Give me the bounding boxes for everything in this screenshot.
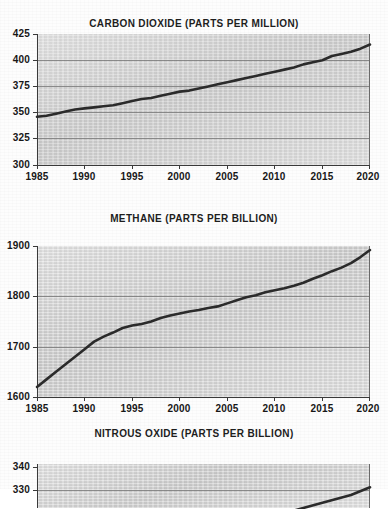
xtick-label-2015: 2015 xyxy=(302,171,342,182)
xtick-label-m-1995: 1995 xyxy=(112,403,152,414)
plot-wrap-methane: 1900 1800 1700 1600 1985 1990 1995 2000 … xyxy=(0,224,388,384)
xtick-label-2005: 2005 xyxy=(207,171,247,182)
xtick-label-1995: 1995 xyxy=(112,171,152,182)
chart-title-carbon-dioxide: CARBON DIOXIDE (PARTS PER MILLION) xyxy=(0,18,388,29)
chart-panel-nitrous-oxide: NITROUS OXIDE (PARTS PER BILLION) 340 33… xyxy=(0,420,388,509)
xtick-mark-m-1985 xyxy=(37,397,38,401)
xtick-mark-m-2005 xyxy=(227,397,228,401)
plot-wrap-carbon-dioxide: 425 400 375 350 325 300 1985 1990 1995 2… xyxy=(0,29,388,179)
chart-panel-methane: METHANE (PARTS PER BILLION) 1900 1800 17… xyxy=(0,205,388,384)
xtick-label-m-1985: 1985 xyxy=(17,403,57,414)
xtick-mark-m-2015 xyxy=(322,397,323,401)
x-axis-carbon-dioxide xyxy=(37,165,370,166)
ytick-label-1700: 1700 xyxy=(0,341,30,352)
xtick-label-m-1990: 1990 xyxy=(64,403,104,414)
xtick-label-2000: 2000 xyxy=(159,171,199,182)
xtick-label-1990: 1990 xyxy=(64,171,104,182)
series-line-nitrous-oxide xyxy=(37,464,370,508)
ytick-label-350: 350 xyxy=(0,106,30,117)
ytick-label-300: 300 xyxy=(0,159,30,170)
xtick-label-m-2020: 2020 xyxy=(348,403,388,414)
ytick-label-1900: 1900 xyxy=(0,240,30,251)
xtick-label-2010: 2010 xyxy=(254,171,294,182)
xtick-label-2020: 2020 xyxy=(348,171,388,182)
ytick-label-1800: 1800 xyxy=(0,290,30,301)
xtick-mark-2020 xyxy=(369,165,370,169)
xtick-label-m-2005: 2005 xyxy=(207,403,247,414)
ytick-label-375: 375 xyxy=(0,80,30,91)
xtick-label-1985: 1985 xyxy=(17,171,57,182)
series-line-carbon-dioxide xyxy=(37,34,370,165)
xtick-mark-1990 xyxy=(84,165,85,169)
plot-wrap-nitrous-oxide: 340 330 xyxy=(0,439,388,509)
x-axis-methane xyxy=(37,397,370,398)
xtick-mark-m-1990 xyxy=(84,397,85,401)
xtick-mark-2000 xyxy=(179,165,180,169)
xtick-mark-m-2000 xyxy=(179,397,180,401)
ytick-label-330: 330 xyxy=(0,484,30,495)
ytick-label-340: 340 xyxy=(0,461,30,472)
xtick-label-m-2010: 2010 xyxy=(254,403,294,414)
ytick-label-400: 400 xyxy=(0,54,30,65)
xtick-label-m-2000: 2000 xyxy=(159,403,199,414)
xtick-label-m-2015: 2015 xyxy=(302,403,342,414)
xtick-mark-m-2020 xyxy=(369,397,370,401)
xtick-mark-2010 xyxy=(274,165,275,169)
series-line-methane xyxy=(37,246,370,397)
chart-panel-carbon-dioxide: CARBON DIOXIDE (PARTS PER MILLION) 425 4… xyxy=(0,0,388,179)
ytick-label-325: 325 xyxy=(0,132,30,143)
chart-title-nitrous-oxide: NITROUS OXIDE (PARTS PER BILLION) xyxy=(0,428,388,439)
xtick-mark-1985 xyxy=(37,165,38,169)
chart-title-methane: METHANE (PARTS PER BILLION) xyxy=(0,213,388,224)
xtick-mark-m-2010 xyxy=(274,397,275,401)
ytick-label-425: 425 xyxy=(0,28,30,39)
xtick-mark-m-1995 xyxy=(132,397,133,401)
xtick-mark-2005 xyxy=(227,165,228,169)
ytick-label-1600: 1600 xyxy=(0,391,30,402)
xtick-mark-1995 xyxy=(132,165,133,169)
xtick-mark-2015 xyxy=(322,165,323,169)
